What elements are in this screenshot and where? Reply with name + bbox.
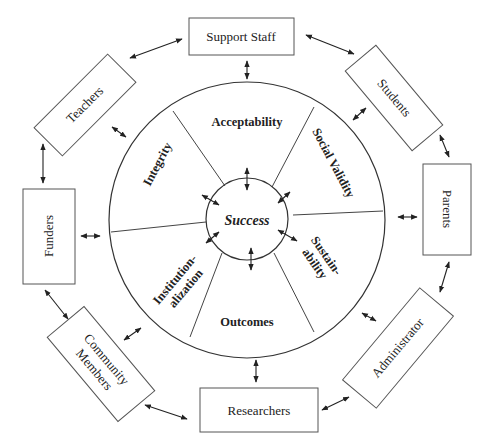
double-arrow-icon: [112, 127, 126, 137]
segment-integrity: Integrity: [140, 139, 175, 188]
double-arrow-icon: [124, 328, 141, 340]
double-arrow-icon: [278, 230, 297, 241]
segment-outcomes: Outcomes: [220, 315, 274, 329]
double-arrow-icon: [145, 405, 187, 419]
stakeholder-label: Support Staff: [206, 29, 276, 44]
stakeholder-teachers: Teachers: [34, 54, 136, 156]
stakeholder-success-diagram: Success Acceptability Social Validity Su…: [0, 0, 492, 447]
double-arrow-icon: [202, 195, 219, 205]
stakeholder-funders: Funders: [23, 189, 75, 284]
double-arrow-icon: [322, 397, 349, 410]
segment-social-validity: Social Validity: [309, 126, 358, 201]
stakeholder-parents: Parents: [423, 164, 471, 255]
double-arrow-icon: [45, 290, 68, 319]
segment-acceptability: Acceptability: [212, 115, 284, 129]
double-arrow-icon: [440, 135, 449, 157]
double-arrow-icon: [306, 35, 354, 54]
stakeholder-label: Parents: [440, 190, 455, 228]
stakeholder-students: Students: [345, 45, 442, 150]
center-label: Success: [224, 213, 270, 228]
double-arrow-icon: [440, 262, 449, 292]
spoke: [111, 222, 206, 232]
stakeholder-label: Researchers: [228, 403, 291, 418]
stakeholder-researchers: Researchers: [200, 388, 318, 432]
stakeholder-label: Funders: [41, 215, 56, 257]
stakeholder-support-staff: Support Staff: [189, 18, 294, 55]
stakeholder-administrator: Administrator: [343, 288, 454, 408]
double-arrow-icon: [353, 108, 366, 120]
spoke: [293, 211, 383, 215]
segment-sustainability: Sustain- ability: [297, 234, 345, 286]
double-arrow-icon: [130, 39, 182, 58]
stakeholder-community-members: Community Members: [47, 306, 154, 421]
double-arrow-icon: [362, 313, 376, 321]
